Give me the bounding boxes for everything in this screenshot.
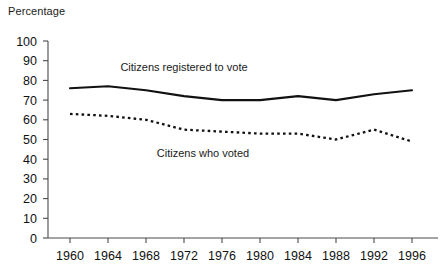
x-tick-1992: 1992	[360, 249, 388, 263]
y-tick-90: 90	[23, 54, 37, 68]
y-tick-70: 70	[23, 94, 37, 108]
series-line-voted	[70, 114, 412, 142]
series-line-registered	[70, 86, 412, 100]
x-tick-1996: 1996	[398, 249, 426, 263]
annotation-registered: Citizens registered to vote	[120, 61, 247, 73]
line-chart-plot: 0102030405060708090100 19601964196819721…	[0, 0, 448, 280]
x-axis-tick-marks	[70, 238, 412, 243]
y-tick-10: 10	[23, 212, 37, 226]
y-tick-0: 0	[30, 232, 37, 246]
x-tick-1964: 1964	[94, 249, 122, 263]
y-tick-30: 30	[23, 172, 37, 186]
x-tick-1976: 1976	[208, 249, 236, 263]
y-tick-100: 100	[16, 35, 37, 49]
y-axis-tick-labels: 0102030405060708090100	[16, 35, 37, 246]
annotation-voted: Citizens who voted	[157, 147, 249, 159]
series-annotations: Citizens registered to voteCitizens who …	[120, 61, 249, 160]
y-tick-20: 20	[23, 192, 37, 206]
x-tick-1968: 1968	[132, 249, 160, 263]
x-tick-1960: 1960	[56, 249, 84, 263]
y-tick-50: 50	[23, 133, 37, 147]
y-tick-40: 40	[23, 153, 37, 167]
y-axis-tick-marks	[43, 41, 48, 238]
y-tick-60: 60	[23, 113, 37, 127]
x-axis-tick-labels: 1960196419681972197619801984198819921996	[56, 249, 426, 263]
x-tick-1972: 1972	[170, 249, 198, 263]
y-tick-80: 80	[23, 74, 37, 88]
chart-container: Percentage 0102030405060708090100 196019…	[0, 0, 448, 280]
x-tick-1988: 1988	[322, 249, 350, 263]
x-tick-1984: 1984	[284, 249, 312, 263]
x-tick-1980: 1980	[246, 249, 274, 263]
